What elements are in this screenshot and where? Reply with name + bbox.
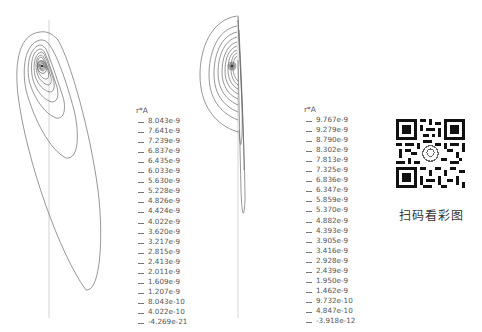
- legend-left: r*A 8.043e-9 7.641e-9 7.239e-9 6.837e-9 …: [136, 106, 187, 327]
- legend-title: r*A: [304, 105, 355, 115]
- legend-item: 2.815e-9: [136, 247, 187, 257]
- legend-item: 8.043e-9: [136, 116, 187, 126]
- legend-item: 1.462e-9: [304, 286, 355, 296]
- legend-item: 6.033e-9: [136, 166, 187, 176]
- legend-item: 3.217e-9: [136, 237, 187, 247]
- contour-center: [41, 65, 44, 68]
- legend-item: 5.630e-9: [136, 176, 187, 186]
- legend-item: 3.416e-9: [304, 246, 355, 256]
- legend-item: 7.239e-9: [136, 136, 187, 146]
- legend-item: 9.279e-9: [304, 125, 355, 135]
- legend-item: 8.790e-9: [304, 135, 355, 145]
- qr-caption: 扫码看彩图: [386, 206, 476, 223]
- legend-title: r*A: [136, 106, 187, 116]
- contour-lines: [17, 32, 101, 290]
- legend-item: 6.347e-9: [304, 185, 355, 195]
- legend-item: 4.882e-9: [304, 216, 355, 226]
- legend-item: 1.950e-9: [304, 276, 355, 286]
- contour-plot-left: [0, 0, 130, 332]
- legend-item: 4.826e-9: [136, 196, 187, 206]
- legend-item: 4.847e-10: [304, 306, 355, 316]
- legend-right: r*A 9.767e-9 9.279e-9 8.790e-9 8.302e-9 …: [304, 105, 355, 326]
- legend-item: 5.859e-9: [304, 195, 355, 205]
- legend-item: 4.022e-9: [136, 217, 187, 227]
- legend-item: 6.837e-9: [136, 146, 187, 156]
- legend-item: 7.325e-9: [304, 165, 355, 175]
- legend-item: 8.043e-10: [136, 297, 187, 307]
- legend-item: 7.641e-9: [136, 126, 187, 136]
- legend-item: -3.918e-12: [304, 316, 355, 326]
- contour-plot-right: [190, 0, 300, 332]
- legend-item: 2.011e-9: [136, 267, 187, 277]
- legend-item: 9.767e-9: [304, 115, 355, 125]
- legend-item: 1.609e-9: [136, 277, 187, 287]
- contour-center: [231, 65, 234, 68]
- legend-item: 4.393e-9: [304, 226, 355, 236]
- qr-code-icon[interactable]: [396, 119, 465, 188]
- legend-item: 2.413e-9: [136, 257, 187, 267]
- legend-item: 3.905e-9: [304, 236, 355, 246]
- legend-item: 2.928e-9: [304, 256, 355, 266]
- legend-item: 4.424e-9: [136, 206, 187, 216]
- legend-item: 4.022e-10: [136, 307, 187, 317]
- legend-item: 8.302e-9: [304, 145, 355, 155]
- legend-item: 6.435e-9: [136, 156, 187, 166]
- legend-item: 2.439e-9: [304, 266, 355, 276]
- legend-item: 3.620e-9: [136, 227, 187, 237]
- legend-item: 5.228e-9: [136, 186, 187, 196]
- legend-item: -4.269e-21: [136, 317, 187, 327]
- legend-item: 5.370e-9: [304, 205, 355, 215]
- legend-item: 7.813e-9: [304, 155, 355, 165]
- legend-item: 9.732e-10: [304, 296, 355, 306]
- legend-item: 6.836e-9: [304, 175, 355, 185]
- legend-item: 1.207e-9: [136, 287, 187, 297]
